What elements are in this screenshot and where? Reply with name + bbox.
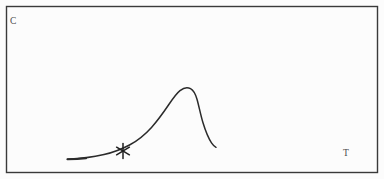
plot-canvas <box>0 0 384 179</box>
y-axis-label: C <box>10 17 17 27</box>
figure-container: C T <box>0 0 384 179</box>
curve-baseline-onset <box>68 158 87 159</box>
concentration-curve <box>68 88 217 159</box>
x-axis-label: T <box>343 149 349 159</box>
